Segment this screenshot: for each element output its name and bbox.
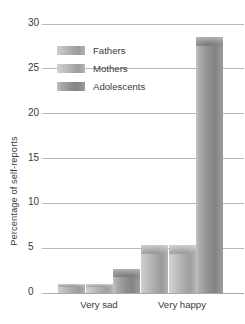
bar-body xyxy=(196,37,223,293)
bar-adolescents-very-happy xyxy=(196,37,223,293)
x-axis-labels: Very sadVery happy xyxy=(50,299,244,317)
legend-item-adolescents: Adolescents xyxy=(57,79,145,94)
legend-label: Fathers xyxy=(93,45,126,56)
bar-cap xyxy=(169,245,196,254)
bar-mothers-very-happy xyxy=(169,245,196,293)
x-axis-label-very-happy: Very happy xyxy=(132,299,232,310)
bar-adolescents-very-sad xyxy=(113,269,140,293)
y-tick-label: 5 xyxy=(28,242,50,252)
bar-cap xyxy=(113,269,140,277)
bar-cap xyxy=(58,284,85,287)
y-tick-label: 10 xyxy=(28,197,50,207)
gridline xyxy=(50,24,244,25)
y-axis-ticks: 051015202530 xyxy=(0,24,46,293)
bar-chart: Percentage of self-reports 051015202530 … xyxy=(0,0,245,324)
legend-item-fathers: Fathers xyxy=(57,43,145,58)
legend-swatch-adolescents-icon xyxy=(57,82,85,91)
y-tick-label: 30 xyxy=(28,18,50,28)
bar-mothers-very-sad xyxy=(86,284,113,293)
bar-fathers-very-happy xyxy=(141,245,168,293)
chart-legend: FathersMothersAdolescents xyxy=(57,43,145,97)
y-tick-label: 15 xyxy=(28,153,50,163)
bar-cap xyxy=(86,284,113,287)
legend-label: Mothers xyxy=(93,63,128,74)
y-tick-label: 20 xyxy=(28,108,50,118)
legend-swatch-mothers-icon xyxy=(57,64,85,73)
legend-swatch-fathers-icon xyxy=(57,46,85,55)
bar-cap xyxy=(196,37,223,46)
bar-cap xyxy=(141,245,168,254)
legend-item-mothers: Mothers xyxy=(57,61,145,76)
y-tick-label: 25 xyxy=(28,63,50,73)
bar-fathers-very-sad xyxy=(58,284,85,293)
y-tick-label: 0 xyxy=(28,287,50,297)
legend-label: Adolescents xyxy=(93,81,145,92)
